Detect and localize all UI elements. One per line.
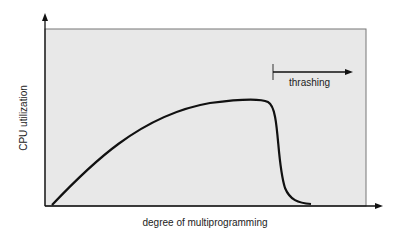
x-axis-arrow-icon [375,203,383,209]
thrashing-diagram: thrashing degree of multiprogramming CPU… [0,0,400,240]
y-axis-label: CPU utilization [18,85,29,151]
thrashing-label: thrashing [289,77,330,88]
y-axis-arrow-icon [42,13,48,21]
plot-panel [45,29,366,206]
x-axis-label: degree of multiprogramming [142,217,267,228]
